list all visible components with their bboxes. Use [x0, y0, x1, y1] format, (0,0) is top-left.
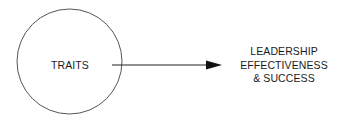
outcome-label: LEADERSHIP EFFECTIVENESS & SUCCESS: [232, 45, 336, 86]
outcome-line-2: EFFECTIVENESS: [232, 59, 336, 73]
outcome-line-3: & SUCCESS: [232, 72, 336, 86]
traits-label: TRAITS: [34, 59, 106, 71]
arrow-head-icon: [206, 61, 222, 70]
outcome-line-1: LEADERSHIP: [232, 45, 336, 59]
